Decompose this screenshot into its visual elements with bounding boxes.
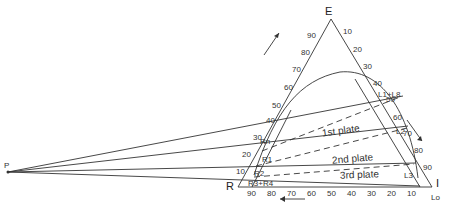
extract-label: L1+L8	[378, 91, 400, 99]
right-tick: 20	[353, 46, 362, 54]
raffinate-label: Rn	[260, 138, 270, 146]
bottom-tick: 80	[267, 190, 276, 198]
left-tick: 20	[242, 151, 251, 159]
bottom-tick: 60	[307, 190, 316, 198]
right-tick: 10	[343, 28, 352, 36]
left-tick: 70	[292, 66, 301, 74]
extract-label: L3	[404, 172, 413, 180]
right-tick: 90	[423, 164, 432, 172]
right-tick: 30	[363, 63, 372, 71]
left-tick: 80	[301, 49, 310, 57]
vertex-i: I	[436, 178, 439, 189]
right-tick: 40	[373, 80, 382, 88]
left-tick: 90	[307, 32, 316, 40]
raffinate-label: R3+R4	[248, 180, 273, 188]
extract-label: L2	[396, 128, 405, 136]
extract-label: Lo	[431, 194, 440, 202]
vertex-e: E	[325, 6, 332, 17]
ternary-diagram	[0, 0, 449, 210]
raffinate-label: R2	[254, 170, 264, 178]
pole-p: P	[4, 162, 9, 170]
raffinate-label: R1	[262, 156, 272, 164]
bottom-tick: 40	[347, 190, 356, 198]
bottom-tick: 10	[407, 190, 416, 198]
vertex-r: R	[226, 181, 234, 192]
left-tick: 40	[266, 117, 275, 125]
right-tick: 80	[414, 147, 423, 155]
right-tick: 60	[393, 114, 402, 122]
bottom-tick: 90	[247, 190, 256, 198]
bottom-tick: 30	[367, 190, 376, 198]
bottom-tick: 20	[387, 190, 396, 198]
plate-label: 3rd plate	[340, 169, 379, 180]
left-tick: 50	[272, 102, 281, 110]
left-tick: 60	[284, 84, 293, 92]
bottom-tick: 70	[287, 190, 296, 198]
left-tick: 10	[236, 168, 245, 176]
bottom-tick: 50	[327, 190, 336, 198]
